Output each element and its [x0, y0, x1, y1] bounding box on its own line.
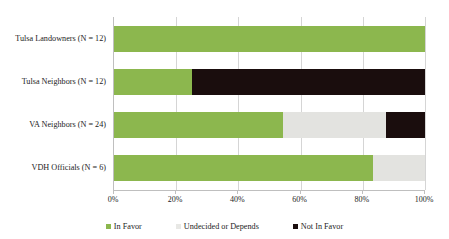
- legend-label: Not In Favor: [301, 222, 343, 231]
- x-tick-label: 40%: [230, 195, 245, 204]
- x-tick-label: 0%: [108, 195, 119, 204]
- bar-segment[interactable]: [114, 69, 192, 95]
- legend-swatch-icon: [106, 224, 111, 229]
- bar-row[interactable]: [114, 69, 425, 95]
- x-tick-label: 100%: [415, 195, 434, 204]
- x-axis-ticks: 0%20%40%60%80%100%: [113, 191, 424, 207]
- legend-swatch-icon: [293, 224, 298, 229]
- bar-segment[interactable]: [114, 112, 283, 138]
- x-tick-mark: [300, 191, 301, 194]
- category-label: VDH Officials (N = 6): [0, 163, 106, 173]
- bar-segment[interactable]: [114, 155, 373, 181]
- bar-segment[interactable]: [114, 26, 425, 52]
- legend-label: In Favor: [114, 222, 142, 231]
- legend-item[interactable]: Undecided or Depends: [176, 222, 259, 231]
- bar-row[interactable]: [114, 26, 425, 52]
- x-tick-mark: [237, 191, 238, 194]
- bar-segment[interactable]: [283, 112, 387, 138]
- bar-row[interactable]: [114, 112, 425, 138]
- plot-area: [113, 17, 425, 190]
- gridline-100: [425, 17, 426, 190]
- legend-label: Undecided or Depends: [184, 222, 259, 231]
- x-tick-label: 60%: [292, 195, 307, 204]
- legend-item[interactable]: In Favor: [106, 222, 142, 231]
- stacked-bar-chart: Tulsa Landowners (N = 12)Tulsa Neighbors…: [0, 0, 449, 239]
- chart-title: [0, 0, 449, 4]
- category-axis-labels: Tulsa Landowners (N = 12)Tulsa Neighbors…: [0, 17, 110, 190]
- category-label: Tulsa Landowners (N = 12): [0, 34, 106, 44]
- category-label: Tulsa Neighbors (N = 12): [0, 77, 106, 87]
- legend-swatch-icon: [176, 224, 181, 229]
- bar-segment[interactable]: [386, 112, 425, 138]
- x-tick-mark: [113, 191, 114, 194]
- x-tick-label: 80%: [354, 195, 369, 204]
- legend-item[interactable]: Not In Favor: [293, 222, 343, 231]
- bar-segment[interactable]: [373, 155, 425, 181]
- category-label: VA Neighbors (N = 24): [0, 120, 106, 130]
- x-tick-mark: [424, 191, 425, 194]
- bar-segment[interactable]: [192, 69, 425, 95]
- bar-row[interactable]: [114, 155, 425, 181]
- chart-legend: In FavorUndecided or DependsNot In Favor: [0, 219, 449, 233]
- x-tick-label: 20%: [168, 195, 183, 204]
- x-tick-mark: [175, 191, 176, 194]
- x-tick-mark: [362, 191, 363, 194]
